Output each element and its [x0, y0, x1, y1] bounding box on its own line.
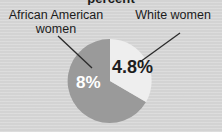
label-african-american-women: African American women — [2, 9, 110, 36]
chart-figure: percent African American women White wom… — [0, 0, 222, 132]
value-african-american-percent: 8% — [76, 73, 101, 93]
label-african-american-line-1: African American — [2, 9, 110, 23]
label-african-american-line-2: women — [2, 23, 110, 37]
label-white-women: White women — [126, 9, 220, 23]
value-white-percent: 4.8% — [112, 57, 153, 78]
